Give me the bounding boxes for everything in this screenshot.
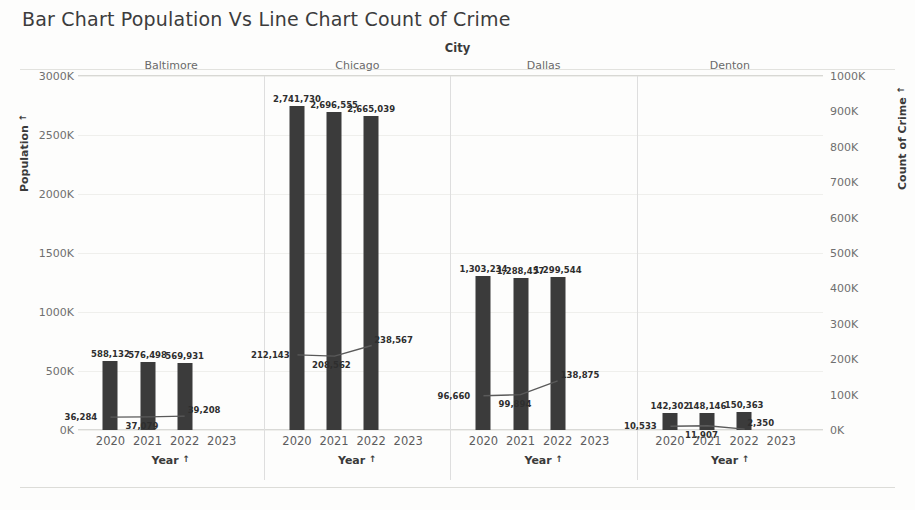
crime-line-path — [483, 381, 557, 396]
x-axis-field-text: Year — [338, 454, 369, 467]
line-value-label: 208,562 — [312, 360, 351, 370]
line-value-label: 2,350 — [747, 418, 774, 428]
line-value-label: 238,567 — [374, 335, 413, 345]
plot-area: 588,132576,498569,93136,28437,07939,2082… — [78, 76, 823, 430]
line-value-label: 96,660 — [437, 391, 470, 401]
y-axis-right-ticks: 0K100K200K300K400K500K600K700K800K900K10… — [828, 76, 886, 430]
x-axis-tick-2023: 2023 — [767, 434, 796, 448]
axis-tick-label: 800K — [830, 140, 858, 153]
axis-tick-label: 400K — [830, 282, 858, 295]
x-axis-tick-2022: 2022 — [170, 434, 199, 448]
x-axis-panel-dallas: 2020202120222023Year ↑ — [450, 430, 637, 480]
sort-ascending-icon: ↑ — [556, 454, 564, 464]
x-axis-tick-2020: 2020 — [655, 434, 684, 448]
line-value-label: 212,143 — [251, 350, 290, 360]
panel-plot: 142,302148,146150,36310,53311,9072,350 — [638, 76, 824, 430]
x-axis-tick-2023: 2023 — [207, 434, 236, 448]
chart-panel-dallas: 1,303,2341,288,4571,299,54496,66099,8941… — [450, 76, 637, 430]
sort-ascending-icon: ↑ — [369, 454, 377, 464]
y-axis-left-ticks: 0K500K1000K1500K2000K2500K3000K — [18, 76, 76, 430]
line-value-label: 99,894 — [499, 399, 532, 409]
panel-header-dallas[interactable]: Dallas — [451, 58, 637, 76]
axis-tick-label: 1000K — [830, 70, 865, 83]
chart-panel-baltimore: 588,132576,498569,93136,28437,07939,208 — [78, 76, 264, 430]
x-axis-field-text: Year — [711, 454, 742, 467]
axis-tick-label: 1500K — [39, 247, 74, 260]
axis-tick-label: 900K — [830, 105, 858, 118]
panel-header-baltimore[interactable]: Baltimore — [78, 58, 264, 76]
axis-title-text: Count of Crime — [896, 93, 909, 190]
x-axis-tick-2023: 2023 — [580, 434, 609, 448]
axis-tick-label: 1000K — [39, 306, 74, 319]
page-title: Bar Chart Population Vs Line Chart Count… — [22, 8, 511, 30]
axis-tick-label: 100K — [830, 388, 858, 401]
axis-tick-label: 500K — [830, 247, 858, 260]
sort-ascending-icon: ↑ — [742, 454, 750, 464]
x-axis-tick-2022: 2022 — [730, 434, 759, 448]
line-value-label: 138,875 — [561, 370, 600, 380]
x-axis-tick-2021: 2021 — [319, 434, 348, 448]
crime-line-series[interactable] — [451, 76, 637, 430]
x-axis-tick-2021: 2021 — [692, 434, 721, 448]
footer-divider — [20, 487, 895, 488]
x-axis-panel-baltimore: 2020202120222023Year ↑ — [78, 430, 264, 480]
chart-panel-denton: 142,302148,146150,36310,53311,9072,350 — [637, 76, 824, 430]
line-value-label: 36,284 — [64, 412, 97, 422]
x-axis-tick-2020: 2020 — [469, 434, 498, 448]
axis-tick-label: 500K — [46, 365, 74, 378]
axis-tick-label: 3000K — [39, 70, 74, 83]
axis-tick-label: 300K — [830, 317, 858, 330]
axis-tick-label: 600K — [830, 211, 858, 224]
x-axis-tick-2022: 2022 — [357, 434, 386, 448]
x-axis-tick-2020: 2020 — [96, 434, 125, 448]
axis-tick-label: 200K — [830, 353, 858, 366]
panel-plot: 1,303,2341,288,4571,299,54496,66099,8941… — [451, 76, 637, 430]
panel-plot: 588,132576,498569,93136,28437,07939,208 — [78, 76, 264, 430]
crime-line-path — [670, 426, 744, 429]
crime-line-path — [110, 416, 184, 417]
x-axis-field-label[interactable]: Year ↑ — [451, 454, 637, 467]
panel-plot: 2,741,7302,696,5552,665,039212,143208,56… — [265, 76, 451, 430]
panel-header-row: BaltimoreChicagoDallasDenton — [78, 58, 823, 76]
axis-tick-label: 2000K — [39, 188, 74, 201]
axis-tick-label: 0K — [60, 424, 74, 437]
x-axis-panel-chicago: 2020202120222023Year ↑ — [264, 430, 451, 480]
x-axis-row: 2020202120222023Year ↑2020202120222023Ye… — [78, 430, 823, 480]
line-value-label: 39,208 — [188, 405, 221, 415]
x-axis-tick-2022: 2022 — [543, 434, 572, 448]
axis-tick-label: 0K — [830, 424, 844, 437]
crime-line-series[interactable] — [638, 76, 824, 430]
x-axis-tick-2021: 2021 — [506, 434, 535, 448]
crime-line-series[interactable] — [78, 76, 264, 430]
axis-tick-label: 700K — [830, 176, 858, 189]
x-axis-field-text: Year — [524, 454, 555, 467]
sort-ascending-icon: ↑ — [183, 454, 191, 464]
sort-ascending-icon: ↑ — [896, 86, 906, 94]
x-axis-tick-2023: 2023 — [394, 434, 423, 448]
axis-tick-label: 2500K — [39, 129, 74, 142]
panel-header-denton[interactable]: Denton — [637, 58, 823, 76]
x-axis-field-label[interactable]: Year ↑ — [638, 454, 824, 467]
x-axis-field-label[interactable]: Year ↑ — [265, 454, 451, 467]
crime-line-path — [297, 346, 371, 357]
x-axis-field-label[interactable]: Year ↑ — [78, 454, 264, 467]
x-axis-tick-2021: 2021 — [133, 434, 162, 448]
y-axis-right-title[interactable]: Count of Crime ↑ — [896, 86, 909, 190]
crime-line-series[interactable] — [265, 76, 451, 430]
column-field-label[interactable]: City — [0, 41, 915, 55]
panel-header-chicago[interactable]: Chicago — [264, 58, 450, 76]
x-axis-field-text: Year — [151, 454, 182, 467]
x-axis-tick-2020: 2020 — [282, 434, 311, 448]
x-axis-panel-denton: 2020202120222023Year ↑ — [637, 430, 824, 480]
chart-panel-chicago: 2,741,7302,696,5552,665,039212,143208,56… — [264, 76, 451, 430]
